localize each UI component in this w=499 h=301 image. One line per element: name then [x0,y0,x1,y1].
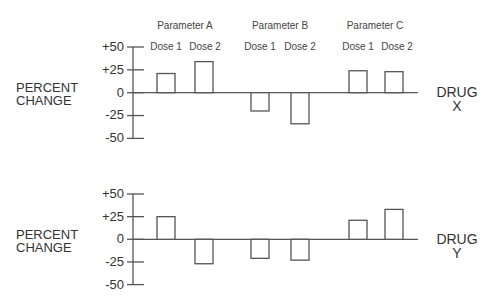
bar [157,217,175,240]
bar [251,93,269,111]
bar [385,209,403,239]
chart-panel-drug-y [127,194,418,285]
bar [291,93,309,124]
bar [195,62,213,93]
bar [251,239,269,258]
bar [195,239,213,263]
bar [349,71,367,93]
chart-panel-drug-x [127,47,418,138]
bar [385,72,403,93]
bar [157,74,175,93]
bar [291,239,309,260]
chart-canvas [0,0,499,301]
bar [349,220,367,239]
